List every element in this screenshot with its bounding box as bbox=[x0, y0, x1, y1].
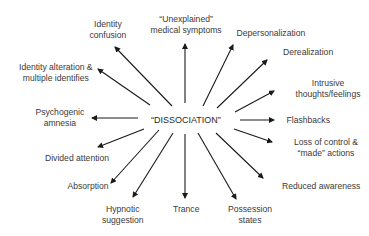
node-label-line: Flashbacks bbox=[287, 115, 330, 126]
node-identity-alteration: Identity alteration &multiple identifies bbox=[19, 62, 93, 83]
node-reduced-awareness: Reduced awareness bbox=[282, 181, 360, 192]
node-flashbacks: Flashbacks bbox=[287, 115, 330, 126]
node-label-line: thoughts/feelings bbox=[296, 89, 361, 100]
arrow-hypnotic-suggestion bbox=[133, 133, 173, 197]
node-label-line: Identity bbox=[90, 19, 127, 30]
arrow-derealization bbox=[217, 60, 267, 108]
node-label-line: Absorption bbox=[68, 181, 109, 192]
node-label-line: Hypnotic bbox=[102, 204, 144, 215]
node-label-line: confusion bbox=[90, 30, 127, 41]
arrow-reduced-awareness bbox=[216, 133, 263, 178]
node-hypnotic-suggestion: Hypnoticsuggestion bbox=[102, 204, 144, 225]
node-intrusive-thoughts: Intrusivethoughts/feelings bbox=[296, 78, 361, 99]
node-identity-confusion: Identityconfusion bbox=[90, 19, 127, 40]
node-possession-states: Possessionstates bbox=[228, 204, 272, 225]
node-label-line: suggestion bbox=[102, 215, 144, 226]
node-label-line: multiple identifies bbox=[19, 73, 93, 84]
node-label-line: Divided attention bbox=[45, 153, 109, 164]
node-label-line: Reduced awareness bbox=[282, 181, 360, 192]
node-label-line: Trance bbox=[173, 204, 199, 215]
node-absorption: Absorption bbox=[68, 181, 109, 192]
node-psychogenic-amnesia: Psychogenicamnesia bbox=[36, 107, 85, 128]
center-label-dissociation: “DISSOCIATION” bbox=[151, 115, 221, 125]
node-label-line: Possession bbox=[228, 204, 272, 215]
node-label-line: “made” actions bbox=[294, 148, 358, 159]
node-label-line: Psychogenic bbox=[36, 107, 85, 118]
node-label-line: states bbox=[228, 215, 272, 226]
node-trance: Trance bbox=[173, 204, 199, 215]
arrow-identity-confusion bbox=[115, 47, 172, 106]
node-derealization: Derealization bbox=[283, 47, 333, 58]
arrow-absorption bbox=[111, 130, 159, 183]
node-label-line: Intrusive bbox=[296, 78, 361, 89]
dissociation-diagram: “DISSOCIATION” Identityconfusion“Unexpla… bbox=[0, 0, 369, 236]
node-label-line: Depersonalization bbox=[237, 28, 306, 39]
node-label-line: Identity alteration & bbox=[19, 62, 93, 73]
arrow-loss-of-control bbox=[234, 129, 272, 142]
node-label-line: amnesia bbox=[36, 118, 85, 129]
node-loss-of-control: Loss of control &“made” actions bbox=[294, 137, 358, 158]
node-label-line: Loss of control & bbox=[294, 137, 358, 148]
node-unexplained-medical-symptoms: “Unexplained”medical symptoms bbox=[151, 14, 222, 35]
node-divided-attention: Divided attention bbox=[45, 153, 109, 164]
arrow-intrusive-thoughts bbox=[235, 91, 274, 112]
arrow-divided-attention bbox=[98, 129, 144, 147]
node-label-line: medical symptoms bbox=[151, 25, 222, 36]
node-label-line: “Unexplained” bbox=[151, 14, 222, 25]
node-depersonalization: Depersonalization bbox=[237, 28, 306, 39]
node-label-line: Derealization bbox=[283, 47, 333, 58]
arrow-possession-states bbox=[198, 133, 236, 199]
